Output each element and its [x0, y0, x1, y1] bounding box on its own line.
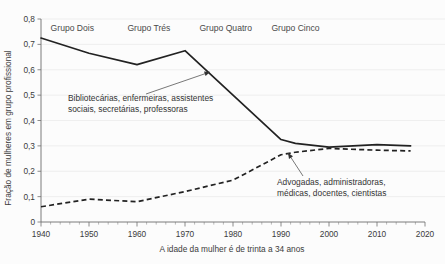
- x-tick-label: 1960: [128, 229, 147, 239]
- annotation-text: Bibliotecárias, enfermeiras, assistentes: [68, 93, 213, 103]
- y-tick-label: 0,2: [23, 166, 35, 176]
- y-tick-label: 0,7: [23, 39, 35, 49]
- x-tick-label: 2000: [320, 229, 339, 239]
- annotation-leader-line: [146, 72, 210, 94]
- x-tick-label: 1980: [224, 229, 243, 239]
- y-axis-title: Fração de mulheres em grupo profissional: [3, 50, 13, 206]
- x-tick-label: 2010: [368, 229, 387, 239]
- group-label: Grupo Trés: [127, 23, 170, 33]
- group-label: Grupo Quatro: [199, 23, 252, 33]
- annotation-text: sociais, secretárias, professoras: [68, 104, 188, 114]
- y-axis-tick-labels: 00,10,20,30,40,50,60,70,8: [23, 14, 35, 227]
- line-chart: 00,10,20,30,40,50,60,70,8 19401950196019…: [0, 0, 445, 264]
- y-axis-ticks: [38, 19, 42, 222]
- y-tick-label: 0,1: [23, 192, 35, 202]
- group-labels: Grupo DoisGrupo TrésGrupo QuatroGrupo Ci…: [51, 23, 320, 33]
- y-tick-label: 0,6: [23, 65, 35, 75]
- annotation-text: Advogadas, administradoras,: [277, 177, 385, 187]
- y-tick-label: 0,8: [23, 14, 35, 24]
- annotation-text: médicas, docentes, cientistas: [277, 188, 386, 198]
- group-label: Grupo Dois: [51, 23, 94, 33]
- x-axis-title: A idade da mulher é de trinta a 34 anos: [160, 244, 305, 254]
- x-axis-tick-labels: 194019501960197019801990200020102020: [32, 229, 435, 239]
- y-tick-label: 0,5: [23, 90, 35, 100]
- y-tick-label: 0: [30, 217, 35, 227]
- y-tick-label: 0,4: [23, 116, 35, 126]
- x-tick-label: 1970: [176, 229, 195, 239]
- x-tick-label: 1950: [80, 229, 99, 239]
- x-tick-label: 1940: [32, 229, 51, 239]
- x-tick-label: 1990: [272, 229, 291, 239]
- y-tick-label: 0,3: [23, 141, 35, 151]
- chart-container: 00,10,20,30,40,50,60,70,8 19401950196019…: [0, 0, 445, 264]
- x-tick-label: 2020: [416, 229, 435, 239]
- group-label: Grupo Cinco: [271, 23, 319, 33]
